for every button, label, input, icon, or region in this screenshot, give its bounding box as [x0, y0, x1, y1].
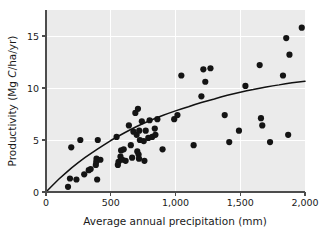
chart-figure: 051015 05001,0001,5002,000 Average annua… — [0, 0, 330, 235]
data-point — [267, 139, 273, 145]
data-point — [299, 25, 305, 31]
y-tick-label: 5 — [33, 135, 39, 146]
data-point — [202, 79, 208, 85]
data-point — [236, 128, 242, 134]
data-point — [174, 112, 180, 118]
data-point — [257, 62, 263, 68]
data-point — [65, 184, 71, 190]
data-point — [97, 157, 103, 163]
x-axis-ticks: 05001,0001,5002,000 — [43, 192, 319, 208]
data-point — [129, 155, 135, 161]
data-point — [135, 106, 141, 112]
data-point — [283, 35, 289, 41]
data-point — [88, 166, 94, 172]
data-point — [68, 144, 74, 150]
data-point — [198, 93, 204, 99]
x-tick-label: 1,500 — [227, 197, 254, 208]
data-point — [123, 158, 129, 164]
data-point — [285, 132, 291, 138]
data-point — [152, 125, 158, 131]
data-point — [136, 156, 142, 162]
data-point — [77, 137, 83, 143]
data-point — [178, 72, 184, 78]
data-point — [242, 83, 248, 89]
x-tick-label: 500 — [102, 197, 120, 208]
data-point — [126, 122, 132, 128]
data-point — [141, 158, 147, 164]
data-point — [128, 142, 134, 148]
data-point — [226, 139, 232, 145]
data-point — [67, 175, 73, 181]
data-point — [152, 132, 158, 138]
data-point — [121, 146, 127, 152]
x-axis-title: Average annual precipitation (mm) — [83, 215, 267, 227]
data-point — [200, 66, 206, 72]
y-tick-label: 15 — [27, 31, 39, 42]
y-tick-label: 0 — [33, 187, 39, 198]
data-point — [258, 115, 264, 121]
y-axis-title: Productivity (Mg C/ha/yr) — [6, 36, 18, 167]
data-point — [95, 137, 101, 143]
y-tick-label: 10 — [27, 83, 39, 94]
data-point — [286, 52, 292, 58]
data-point — [207, 65, 213, 71]
data-point — [222, 112, 228, 118]
data-point — [259, 122, 265, 128]
data-point — [159, 146, 165, 152]
data-point — [280, 72, 286, 78]
x-tick-label: 2,000 — [291, 197, 318, 208]
data-point — [143, 128, 149, 134]
x-tick-label: 0 — [43, 197, 49, 208]
data-point — [136, 128, 142, 134]
x-tick-label: 1,000 — [162, 197, 189, 208]
data-point — [94, 176, 100, 182]
scatter-plot: 051015 05001,0001,5002,000 Average annua… — [0, 0, 330, 235]
data-point — [191, 142, 197, 148]
y-axis-ticks: 051015 — [27, 31, 46, 198]
data-point — [73, 176, 79, 182]
